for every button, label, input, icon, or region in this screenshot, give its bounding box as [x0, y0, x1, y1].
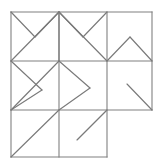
figure-canvas	[0, 0, 155, 161]
cell-row3-col1	[11, 110, 59, 157]
row2-col1-chevron-lower-stroke	[11, 90, 42, 110]
row3-col1-full-diagonal	[11, 110, 59, 157]
row1-col3-peak-right-stroke	[130, 37, 152, 61]
row3-col2-short-diagonal	[77, 110, 107, 140]
row1-col3-peak-left-stroke	[107, 37, 130, 61]
cell-row2-col2	[59, 61, 90, 110]
cell-diagonals-group	[11, 12, 152, 157]
cell-row1-col1	[11, 12, 59, 61]
row2-col3-short-diagonal	[127, 84, 152, 110]
cell-row1-col2	[59, 12, 107, 61]
row2-col1-chevron-upper-stroke	[11, 61, 42, 90]
cell-row3-col2	[77, 110, 107, 140]
row1-col1-v-left-stroke	[11, 12, 35, 37]
cell-row2-col1	[11, 61, 59, 110]
cell-row1-col3	[107, 37, 152, 61]
cell-row2-col3	[127, 84, 152, 110]
grid-puzzle-figure	[0, 0, 155, 161]
row1-col2-v-right-stroke	[83, 12, 107, 37]
row2-col2-chevron-upper-stroke	[59, 61, 90, 88]
row2-col2-chevron-lower-stroke	[59, 88, 90, 110]
